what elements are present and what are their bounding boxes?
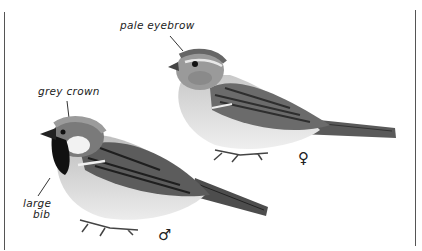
- grey-crown-leader: [67, 101, 69, 118]
- large-bib-label-line2: bib: [33, 208, 50, 220]
- male-symbol: ♂: [158, 226, 171, 244]
- female-sparrow: [168, 50, 396, 162]
- pale-eyebrow-label: pale eyebrow: [120, 19, 195, 31]
- sparrow-illustration: [0, 0, 422, 251]
- pale-eyebrow-leader: [170, 36, 183, 51]
- large-bib-leader: [38, 178, 50, 196]
- grey-crown-label: grey crown: [38, 85, 100, 97]
- female-symbol: ♀: [298, 149, 309, 167]
